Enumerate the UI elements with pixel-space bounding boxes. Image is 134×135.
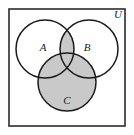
universal-set-label: U: [114, 8, 123, 20]
venn-diagram-figure: A B C U: [0, 0, 134, 135]
venn-diagram-svg: A B C U: [0, 0, 134, 135]
circle-a-label: A: [39, 41, 47, 53]
circle-c-label: C: [63, 94, 71, 106]
circle-b-label: B: [84, 41, 91, 53]
